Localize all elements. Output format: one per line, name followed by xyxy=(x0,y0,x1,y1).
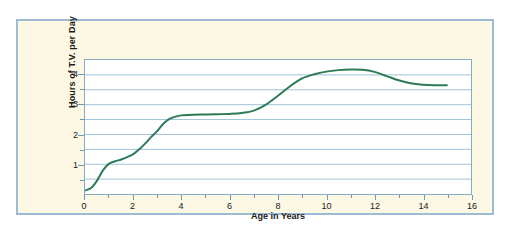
figure-root: Hours of T.V. per Day 1234 0246810121416… xyxy=(0,0,509,234)
x-tick-label: 6 xyxy=(219,201,241,211)
x-major-tick xyxy=(375,195,376,200)
x-minor-tick xyxy=(254,195,255,198)
x-minor-tick xyxy=(157,195,158,198)
x-tick-label: 10 xyxy=(316,201,338,211)
x-minor-tick xyxy=(351,195,352,198)
x-tick-label: 12 xyxy=(364,201,386,211)
x-major-tick xyxy=(133,195,134,200)
y-tick-label: 2 xyxy=(60,130,78,140)
x-major-tick xyxy=(181,195,182,200)
y-minor-tick xyxy=(80,89,84,90)
x-minor-tick xyxy=(205,195,206,198)
x-minor-tick xyxy=(108,195,109,198)
x-tick-label: 14 xyxy=(413,201,435,211)
data-line xyxy=(85,69,447,190)
x-minor-tick xyxy=(399,195,400,198)
y-major-tick xyxy=(78,135,84,136)
y-major-tick xyxy=(78,165,84,166)
y-minor-tick xyxy=(80,180,84,181)
chart-panel: Hours of T.V. per Day 1234 0246810121416… xyxy=(16,19,494,215)
gridlines-group xyxy=(85,75,471,179)
x-major-tick xyxy=(424,195,425,200)
x-tick-label: 0 xyxy=(73,201,95,211)
y-tick-label: 3 xyxy=(60,99,78,109)
y-minor-tick xyxy=(80,119,84,120)
x-major-tick xyxy=(472,195,473,200)
x-major-tick xyxy=(278,195,279,200)
x-tick-label: 2 xyxy=(122,201,144,211)
x-major-tick xyxy=(230,195,231,200)
x-axis-label: Age in Years xyxy=(84,211,472,221)
chart-plot-svg xyxy=(85,60,471,194)
x-tick-label: 8 xyxy=(267,201,289,211)
y-tick-label: 1 xyxy=(60,160,78,170)
x-tick-label: 4 xyxy=(170,201,192,211)
y-tick-label: 4 xyxy=(60,69,78,79)
x-major-tick xyxy=(84,195,85,200)
plot-area xyxy=(84,59,472,195)
x-tick-label: 16 xyxy=(461,201,483,211)
y-major-tick xyxy=(78,104,84,105)
x-major-tick xyxy=(327,195,328,200)
y-major-tick xyxy=(78,74,84,75)
series-group xyxy=(85,69,447,190)
x-minor-tick xyxy=(448,195,449,198)
y-minor-tick xyxy=(80,150,84,151)
x-minor-tick xyxy=(302,195,303,198)
